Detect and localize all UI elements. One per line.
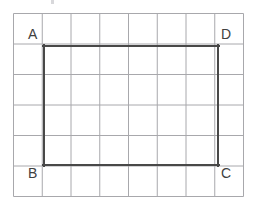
geometry-figure: A D B C xyxy=(0,0,256,208)
vertex-label-d: D xyxy=(221,27,231,41)
grid-lines xyxy=(14,14,244,197)
vertex-label-c: C xyxy=(221,166,231,180)
vertex-label-a: A xyxy=(28,27,37,41)
vertex-label-b: B xyxy=(28,166,37,180)
grid-and-shape-canvas xyxy=(0,0,256,208)
top-edge-artifact xyxy=(51,0,54,4)
